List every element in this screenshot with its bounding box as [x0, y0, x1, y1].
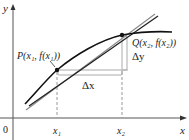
- axes: [0, 4, 187, 140]
- delta-x-bracket: [58, 71, 122, 75]
- y-axis-arrow-icon: [11, 4, 16, 10]
- point-p-label: P(x₁, f(x₁)): [16, 50, 61, 62]
- origin-label: 0: [3, 124, 8, 135]
- delta-y-bracket: [123, 36, 127, 70]
- point-q: [120, 33, 124, 37]
- derivative-diagram: y x 0 x₁ x₂ P(x₁, f(x₁)) Q(x₂, f(x₂)) Δx…: [0, 0, 189, 140]
- delta-y-label: Δy: [132, 50, 145, 62]
- x2-tick-label: x₂: [116, 125, 125, 136]
- y-axis-label: y: [2, 2, 8, 14]
- x-axis-arrow-icon: [180, 116, 187, 121]
- x1-tick-label: x₁: [52, 125, 61, 136]
- point-p: [55, 68, 59, 72]
- x-axis-label: x: [179, 124, 185, 136]
- delta-x-label: Δx: [82, 79, 95, 91]
- point-q-label: Q(x₂, f(x₂)): [132, 37, 177, 49]
- p-label-pointer: [50, 61, 55, 67]
- tangent-line: [26, 14, 155, 110]
